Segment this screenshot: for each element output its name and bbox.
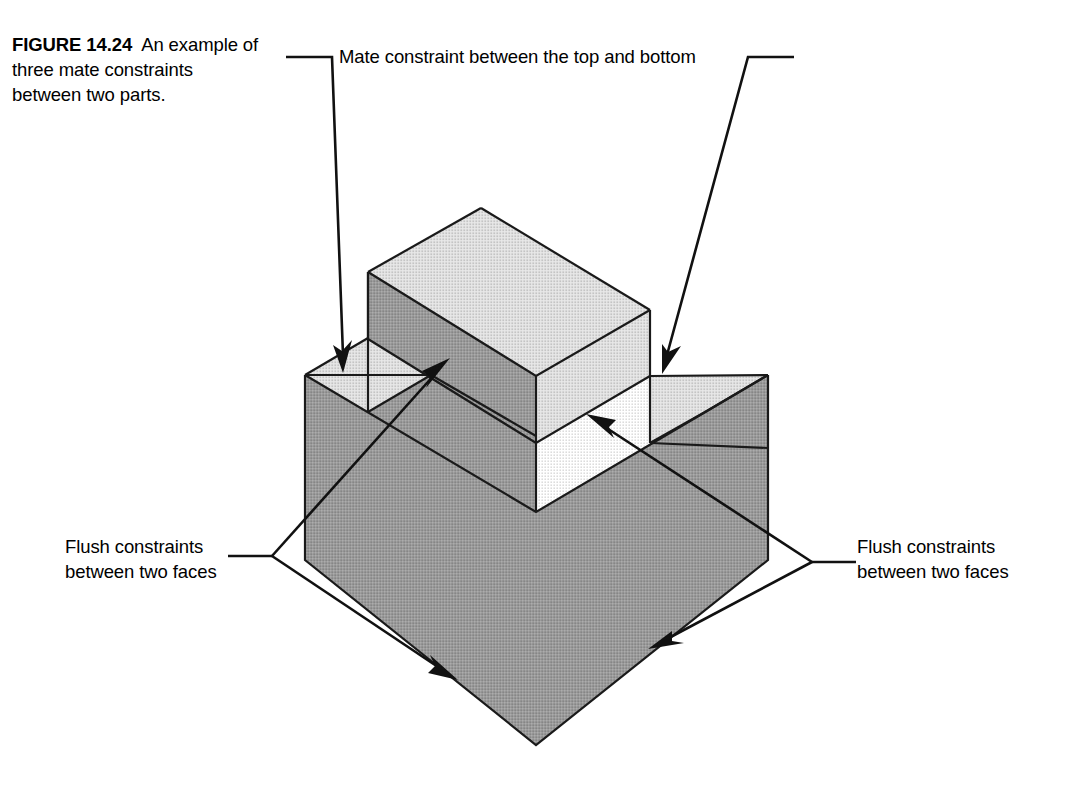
annotation-flush-right-line1: Flush constraints [857, 534, 1009, 559]
figure-number: FIGURE 14.24 [12, 34, 132, 55]
annotation-flush-right-line2: between two faces [857, 559, 1009, 584]
annotation-flush-right: Flush constraints between two faces [857, 534, 1009, 584]
annotation-flush-left: Flush constraints between two faces [65, 534, 217, 584]
annotation-flush-left-line2: between two faces [65, 559, 217, 584]
isometric-assembly-drawing [0, 0, 1072, 807]
figure-container: FIGURE 14.24An example of three mate con… [0, 0, 1072, 807]
halftone-texture [280, 190, 800, 770]
leader-mate-left [286, 57, 352, 373]
leader-mate-right [662, 57, 794, 374]
annotation-flush-left-line1: Flush constraints [65, 534, 217, 559]
figure-caption: FIGURE 14.24An example of three mate con… [12, 32, 264, 107]
annotation-mate-constraint: Mate constraint between the top and bott… [339, 44, 696, 69]
annotation-mate-text: Mate constraint between the top and bott… [339, 46, 696, 67]
